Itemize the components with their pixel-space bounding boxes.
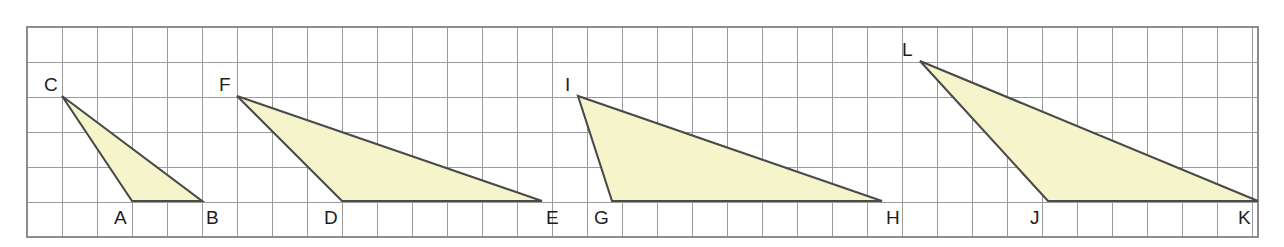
vertex-label-l: L [902,39,913,60]
vertex-label-f: F [219,74,231,95]
vertex-label-e: E [546,207,559,228]
triangle-igh [578,96,882,201]
vertex-label-j: J [1030,207,1040,228]
vertex-label-d: D [324,207,338,228]
vertex-label-a: A [114,207,127,228]
triangles-layer [62,61,1258,201]
vertex-label-h: H [886,207,900,228]
vertex-label-g: G [594,207,609,228]
figure-canvas: CABFDEIGHLJK [0,0,1284,247]
vertex-label-k: K [1238,207,1251,228]
geometry-figure: CABFDEIGHLJK [0,0,1284,247]
triangle-ljk [920,61,1258,201]
vertex-label-c: C [44,74,58,95]
triangle-fde [237,96,542,201]
vertex-label-b: B [206,207,219,228]
vertex-label-i: I [565,74,570,95]
